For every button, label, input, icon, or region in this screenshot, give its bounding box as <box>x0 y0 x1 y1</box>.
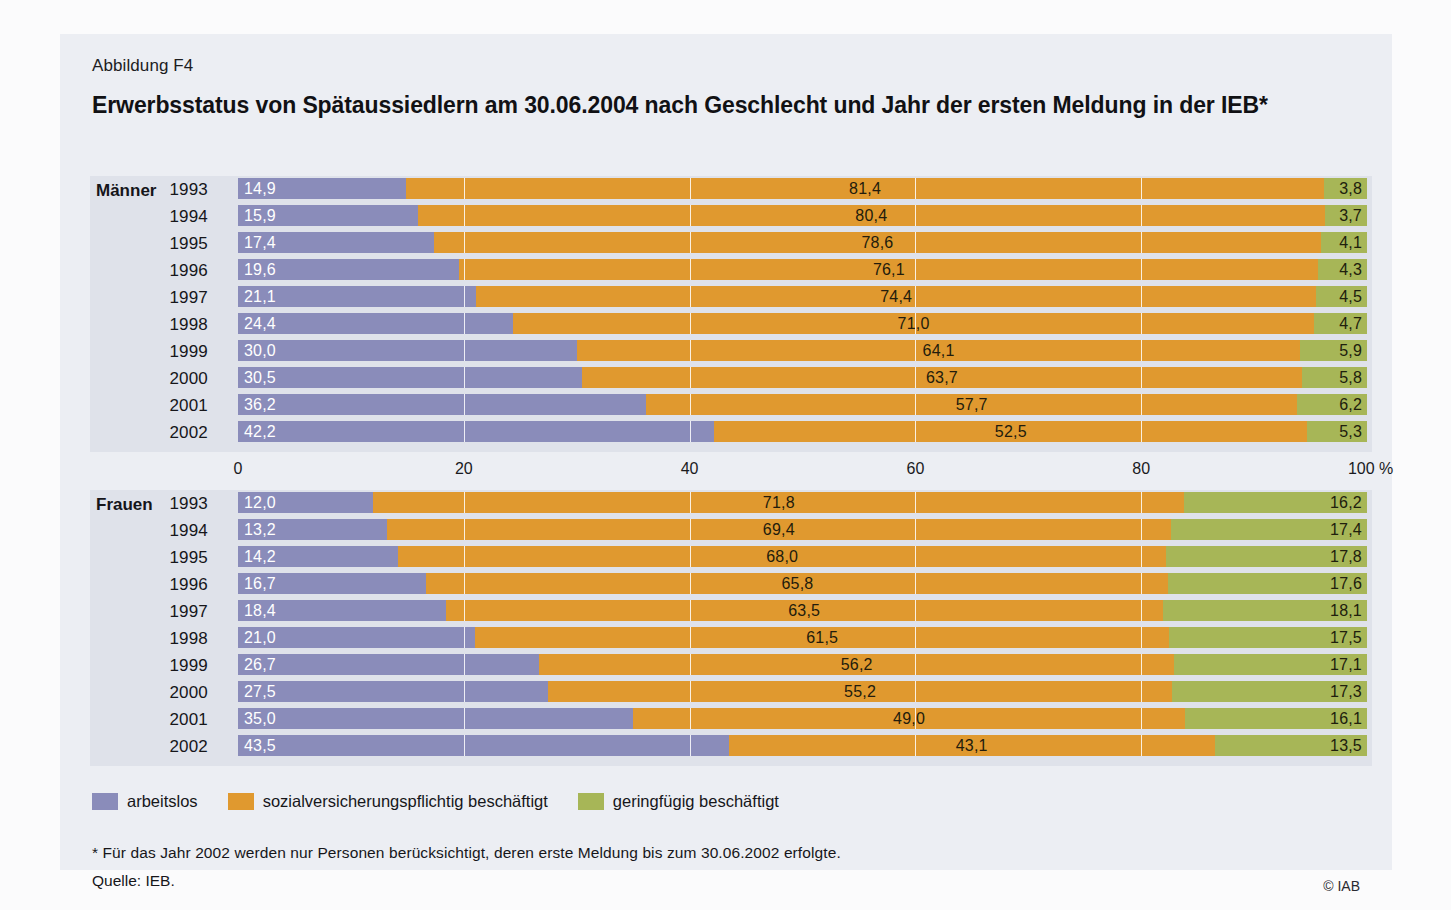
bar-value-label: 3,8 <box>1339 180 1362 198</box>
bar-segment-arbeitslos: 35,0 <box>238 708 633 729</box>
row-year-label: 2000 <box>146 683 208 703</box>
bar-segment-geringfuegig: 17,8 <box>1166 546 1367 567</box>
bar-segment-geringfuegig: 17,3 <box>1172 681 1367 702</box>
bar-value-label: 27,5 <box>244 683 276 701</box>
bar-value-label: 35,0 <box>244 710 276 728</box>
bar-segment-arbeitslos: 27,5 <box>238 681 548 702</box>
bar-segment-geringfuegig: 3,7 <box>1325 205 1367 226</box>
bar-value-label: 13,2 <box>244 521 276 539</box>
bar-value-label: 36,2 <box>244 396 276 414</box>
bar-segment-arbeitslos: 17,4 <box>238 232 434 253</box>
axis-tick-label: 100 % <box>1348 460 1393 478</box>
bar-segment-geringfuegig: 5,3 <box>1307 421 1367 442</box>
bar-segment-arbeitslos: 19,6 <box>238 259 459 280</box>
bar-segment-arbeitslos: 24,4 <box>238 313 513 334</box>
bar-segment-geringfuegig: 6,2 <box>1297 394 1367 415</box>
bar-segment-arbeitslos: 16,7 <box>238 573 426 594</box>
bar-value-label: 42,2 <box>244 423 276 441</box>
bar-segment-sozialversicherungspflichtig: 57,7 <box>646 394 1297 415</box>
stacked-bar: 30,064,15,9 <box>238 340 1367 361</box>
bar-segment-sozialversicherungspflichtig: 63,5 <box>446 600 1163 621</box>
bar-segment-sozialversicherungspflichtig: 56,2 <box>539 654 1173 675</box>
bar-segment-arbeitslos: 14,2 <box>238 546 398 567</box>
row-year-label: 1997 <box>146 602 208 622</box>
bar-segment-geringfuegig: 17,1 <box>1174 654 1367 675</box>
bar-value-label: 56,2 <box>841 656 873 674</box>
stacked-bar: 36,257,76,2 <box>238 394 1367 415</box>
chart-group-maenner: Männer 199314,981,43,8199415,980,43,7199… <box>60 176 1392 452</box>
bar-rows-maenner: 199314,981,43,8199415,980,43,7199517,478… <box>60 176 1392 446</box>
legend-item[interactable]: arbeitslos <box>92 792 198 811</box>
bar-value-label: 63,7 <box>926 369 958 387</box>
bar-row: 200136,257,76,2 <box>60 392 1392 418</box>
stacked-bar: 14,268,017,8 <box>238 546 1367 567</box>
row-year-label: 1994 <box>146 207 208 227</box>
bar-row: 199314,981,43,8 <box>60 176 1392 202</box>
bar-row: 199926,756,217,1 <box>60 652 1392 678</box>
bar-value-label: 17,3 <box>1330 683 1362 701</box>
legend-item[interactable]: geringfügig beschäftigt <box>578 792 779 811</box>
legend-label: arbeitslos <box>127 792 198 811</box>
bar-row: 199718,463,518,1 <box>60 598 1392 624</box>
row-year-label: 1993 <box>146 180 208 200</box>
stacked-bar: 17,478,64,1 <box>238 232 1367 253</box>
legend-item[interactable]: sozialversicherungspflichtig beschäftigt <box>228 792 548 811</box>
bar-value-label: 65,8 <box>781 575 813 593</box>
bar-row: 199514,268,017,8 <box>60 544 1392 570</box>
bar-segment-arbeitslos: 30,5 <box>238 367 582 388</box>
row-year-label: 1996 <box>146 575 208 595</box>
stacked-bar: 13,269,417,4 <box>238 519 1367 540</box>
chart-group-frauen: Frauen 199312,071,816,2199413,269,417,41… <box>60 490 1392 766</box>
bar-value-label: 5,8 <box>1339 369 1362 387</box>
figure-card: Abbildung F4 Erwerbsstatus von Spätaussi… <box>60 34 1392 870</box>
bar-value-label: 80,4 <box>855 207 887 225</box>
bar-value-label: 12,0 <box>244 494 276 512</box>
row-year-label: 1994 <box>146 521 208 541</box>
bar-value-label: 68,0 <box>766 548 798 566</box>
bar-segment-sozialversicherungspflichtig: 74,4 <box>476 286 1316 307</box>
bar-segment-sozialversicherungspflichtig: 64,1 <box>577 340 1301 361</box>
bar-row: 199616,765,817,6 <box>60 571 1392 597</box>
stacked-bar: 35,049,016,1 <box>238 708 1367 729</box>
stacked-bar: 18,463,518,1 <box>238 600 1367 621</box>
x-axis-maenner: 020406080100 % <box>238 456 1367 486</box>
bar-value-label: 43,5 <box>244 737 276 755</box>
bar-segment-geringfuegig: 3,8 <box>1324 178 1367 199</box>
row-year-label: 1998 <box>146 315 208 335</box>
bar-segment-arbeitslos: 42,2 <box>238 421 714 442</box>
bar-segment-geringfuegig: 4,7 <box>1314 313 1367 334</box>
bar-value-label: 6,2 <box>1339 396 1362 414</box>
bar-segment-sozialversicherungspflichtig: 69,4 <box>387 519 1171 540</box>
bar-value-label: 63,5 <box>788 602 820 620</box>
bar-value-label: 5,3 <box>1339 423 1362 441</box>
row-year-label: 1993 <box>146 494 208 514</box>
bar-row: 200027,555,217,3 <box>60 679 1392 705</box>
bar-value-label: 5,9 <box>1339 342 1362 360</box>
bar-value-label: 21,1 <box>244 288 276 306</box>
bar-segment-geringfuegig: 4,5 <box>1316 286 1367 307</box>
bar-segment-geringfuegig: 17,6 <box>1168 573 1367 594</box>
bar-segment-sozialversicherungspflichtig: 52,5 <box>714 421 1307 442</box>
bar-segment-geringfuegig: 5,9 <box>1300 340 1367 361</box>
bar-row: 200135,049,016,1 <box>60 706 1392 732</box>
bar-segment-sozialversicherungspflichtig: 49,0 <box>633 708 1186 729</box>
bar-value-label: 4,3 <box>1339 261 1362 279</box>
bar-segment-geringfuegig: 4,1 <box>1321 232 1367 253</box>
stacked-bar: 30,563,75,8 <box>238 367 1367 388</box>
bar-value-label: 17,4 <box>1330 521 1362 539</box>
legend-swatch-icon <box>92 793 118 810</box>
bar-segment-sozialversicherungspflichtig: 80,4 <box>418 205 1326 226</box>
bar-segment-geringfuegig: 18,1 <box>1163 600 1367 621</box>
bar-segment-geringfuegig: 17,5 <box>1169 627 1367 648</box>
bar-value-label: 17,4 <box>244 234 276 252</box>
bar-value-label: 30,0 <box>244 342 276 360</box>
bar-segment-arbeitslos: 36,2 <box>238 394 646 415</box>
bar-row: 199517,478,64,1 <box>60 230 1392 256</box>
bar-value-label: 18,1 <box>1330 602 1362 620</box>
axis-tick-label: 80 <box>1132 460 1150 478</box>
bar-segment-sozialversicherungspflichtig: 55,2 <box>548 681 1171 702</box>
stacked-bar: 19,676,14,3 <box>238 259 1367 280</box>
axis-tick-label: 20 <box>455 460 473 478</box>
bar-segment-geringfuegig: 5,8 <box>1302 367 1367 388</box>
stacked-bar: 26,756,217,1 <box>238 654 1367 675</box>
